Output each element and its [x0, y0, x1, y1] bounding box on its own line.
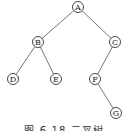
edge-B-D [16, 47, 35, 75]
svg-text:B: B [35, 38, 41, 47]
binary-tree-diagram: ABCDEFG [0, 0, 128, 131]
node-E: E [51, 74, 62, 85]
svg-text:F: F [92, 75, 98, 84]
node-B: B [33, 37, 44, 48]
node-A: A [73, 2, 84, 13]
edge-C-F [98, 47, 113, 74]
svg-text:C: C [112, 38, 118, 47]
tree-edges [16, 11, 113, 109]
edge-A-B [42, 11, 74, 39]
node-C: C [110, 37, 121, 48]
node-D: D [8, 74, 19, 85]
svg-text:A: A [74, 3, 81, 12]
svg-text:G: G [113, 109, 119, 118]
edge-B-E [40, 47, 53, 74]
figure-caption: 图 6-18 二叉树 [0, 122, 128, 131]
node-F: F [90, 74, 101, 85]
svg-text:D: D [10, 75, 16, 84]
edge-F-G [98, 84, 113, 109]
edge-A-C [82, 11, 111, 38]
svg-text:E: E [53, 75, 59, 84]
node-G: G [111, 108, 122, 119]
